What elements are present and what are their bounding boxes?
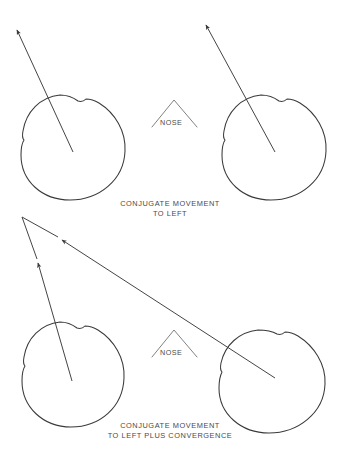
bottom-right-eye — [22, 217, 325, 433]
gaze-line — [206, 25, 275, 152]
gaze-line — [17, 30, 73, 152]
caption-top-line2: TO LEFT — [0, 209, 340, 219]
top-left-eye — [17, 30, 125, 200]
top-right-eye — [206, 25, 326, 200]
nose-label-bottom: NOSE — [160, 348, 182, 357]
gaze-line — [62, 240, 275, 378]
eye-outline — [21, 95, 125, 200]
conjugate-eye-movement-diagram — [0, 0, 340, 453]
panel-top — [17, 25, 326, 200]
gaze-line — [38, 263, 72, 381]
eye-outline — [219, 330, 325, 433]
eye-outline — [22, 322, 124, 427]
caption-top: CONJUGATE MOVEMENT TO LEFT — [0, 199, 340, 218]
caption-top-line1: CONJUGATE MOVEMENT — [0, 199, 340, 209]
caption-bottom-line2: TO LEFT PLUS CONVERGENCE — [0, 431, 340, 441]
panel-bottom — [22, 217, 325, 433]
eye-outline — [222, 95, 326, 200]
gaze-line-extension — [22, 217, 58, 237]
gaze-line-extension — [22, 217, 37, 259]
bottom-left-eye — [22, 217, 124, 427]
nose-label-top: NOSE — [160, 118, 182, 127]
caption-bottom: CONJUGATE MOVEMENT TO LEFT PLUS CONVERGE… — [0, 421, 340, 440]
caption-bottom-line1: CONJUGATE MOVEMENT — [0, 421, 340, 431]
